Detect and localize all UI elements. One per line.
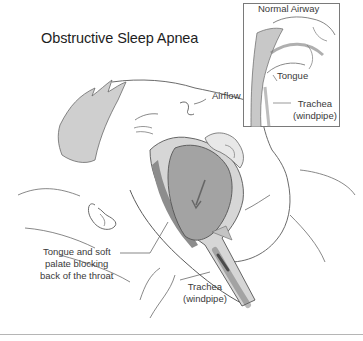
trachea-label: Trachea (windpipe) [183,281,227,305]
inset-trachea-line1: Trachea [293,98,337,110]
airflow-label: Airflow [212,90,241,102]
diagram-title: Obstructive Sleep Apnea [41,30,198,46]
normal-airway-inset: Normal Airway Tongue Trachea (windpipe) [243,3,340,127]
obstruction-label-line3: back of the throat [40,270,113,282]
obstruction-label-line2: palate blocking [40,258,113,270]
obstruction-label-line1: Tongue and soft [40,246,113,258]
trachea-label-line1: Trachea [183,281,227,293]
bottom-divider [0,334,363,335]
inset-trachea-label: Trachea (windpipe) [293,98,337,122]
inset-title: Normal Airway [258,3,319,15]
inset-trachea-line2: (windpipe) [293,110,337,122]
obstruction-label: Tongue and soft palate blocking back of … [40,246,113,282]
inset-tongue-label: Tongue [277,70,308,82]
trachea-label-line2: (windpipe) [183,293,227,305]
